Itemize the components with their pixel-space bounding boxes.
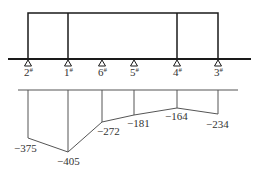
moment-diagram: −375−405−272−181−164−234 [14,90,238,167]
moment-value-5: −181 [127,117,150,129]
moment-value-2: −375 [14,142,37,154]
diagram-canvas: 2#1#6#5#4#3# −375−405−272−181−164−234 [0,0,261,171]
moment-value-6: −272 [97,125,120,137]
support-1: 1# [64,60,74,78]
frame-outline [28,13,218,59]
moment-value-4: −164 [165,110,188,122]
support-label: 2# [24,66,34,78]
moment-curve [28,108,218,152]
supports-group: 2#1#6#5#4#3# [24,60,224,78]
support-4: 4# [173,60,183,78]
support-2: 2# [24,60,34,78]
moment-value-3: −234 [206,118,229,130]
moment-value-1: −405 [57,155,80,167]
support-label: 5# [130,66,140,78]
frame-structure [28,13,218,59]
support-6: 6# [98,60,108,78]
support-label: 3# [214,66,224,78]
support-label: 4# [173,66,183,78]
support-5: 5# [130,60,140,78]
support-label: 1# [64,66,74,78]
support-label: 6# [98,66,108,78]
support-3: 3# [214,60,224,78]
